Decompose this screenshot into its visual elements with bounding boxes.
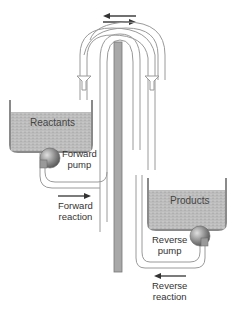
pump-icon [40,148,60,168]
forward-pump-label: Forward pump [62,148,97,170]
bidirectional-arrows-icon [103,13,136,25]
pump-icon [190,226,210,246]
diagram-graphic [0,0,236,310]
right-arrow-icon [58,193,91,199]
left-arrow-icon [154,273,186,279]
products-label: Products [170,195,209,206]
center-bar [114,42,122,272]
reverse-reaction-label: Reverse reaction [152,280,187,302]
reverse-pump-label: Reverse pump [152,234,187,256]
reactants-label: Reactants [30,117,75,128]
equilibrium-diagram: Reactants Products Forward pump Reverse … [0,0,236,310]
forward-reaction-label: Forward reaction [58,200,93,222]
